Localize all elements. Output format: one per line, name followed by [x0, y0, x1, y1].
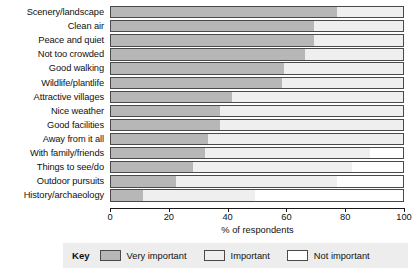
- bar-row: [110, 48, 404, 60]
- bar-segment-important: [305, 49, 404, 59]
- bar-row: [110, 91, 404, 103]
- category-label: Good facilities: [0, 120, 104, 130]
- legend-swatch: [204, 250, 225, 261]
- bar-segment-very-important: [111, 49, 305, 59]
- bar-segment-very-important: [111, 63, 284, 73]
- legend-entries: Very importantImportantNot important: [100, 250, 387, 261]
- horizontal-stacked-bar-chart: Scenery/landscapeClean airPeace and quie…: [0, 0, 415, 274]
- bar-segment-very-important: [111, 106, 220, 116]
- x-axis-tick-label: 100: [389, 212, 415, 223]
- bar-segment-important: [143, 190, 255, 200]
- bar-segment-very-important: [111, 162, 193, 172]
- bar-row: [110, 161, 404, 173]
- bar-segment-very-important: [111, 120, 220, 130]
- bar-segment-not-important: [352, 162, 404, 172]
- category-label: Good walking: [0, 63, 104, 73]
- legend-title: Key: [72, 250, 90, 261]
- bar-segment-important: [282, 78, 404, 88]
- category-label: Clean air: [0, 21, 104, 31]
- x-axis-line: [110, 208, 405, 209]
- legend-label: Important: [231, 251, 270, 261]
- category-labels-axis: Scenery/landscapeClean airPeace and quie…: [0, 6, 104, 207]
- bar-segment-very-important: [111, 92, 232, 102]
- legend-entry: Important: [204, 250, 270, 261]
- bar-row: [110, 105, 404, 117]
- bar-row: [110, 6, 404, 18]
- category-label: Attractive villages: [0, 92, 104, 102]
- bar-segment-very-important: [111, 176, 176, 186]
- category-label: Wildlife/plantlife: [0, 78, 104, 88]
- category-label: History/archaeology: [0, 190, 104, 200]
- bar-segment-very-important: [111, 21, 314, 31]
- x-axis-tick-label: 0: [95, 212, 125, 223]
- bar-row: [110, 133, 404, 145]
- legend-swatch: [287, 250, 308, 261]
- x-axis-tick-label: 20: [154, 212, 184, 223]
- bar-row: [110, 34, 404, 46]
- category-label: Peace and quiet: [0, 35, 104, 45]
- legend-entry: Very important: [100, 250, 187, 261]
- bar-segment-important: [284, 63, 404, 73]
- plot-area: [110, 6, 404, 207]
- bar-row: [110, 77, 404, 89]
- bar-segment-important: [314, 21, 404, 31]
- bar-segment-very-important: [111, 78, 282, 88]
- bar-segment-important: [205, 148, 370, 158]
- bar-segment-very-important: [111, 148, 205, 158]
- category-label: Away from it all: [0, 134, 104, 144]
- bar-segment-important: [176, 176, 338, 186]
- category-label: Things to see/do: [0, 162, 104, 172]
- category-label: Not too crowded: [0, 49, 104, 59]
- bar-segment-very-important: [111, 35, 314, 45]
- legend-swatch: [100, 250, 121, 261]
- bar-segment-very-important: [111, 134, 208, 144]
- x-axis-tick-label: 40: [213, 212, 243, 223]
- x-axis-tick-label: 80: [330, 212, 360, 223]
- bar-segment-important: [314, 35, 404, 45]
- bar-segment-not-important: [370, 148, 404, 158]
- bar-segment-not-important: [337, 176, 404, 186]
- x-axis-title: % of respondents: [110, 225, 405, 235]
- bar-row: [110, 20, 404, 32]
- bar-row: [110, 62, 404, 74]
- chart-legend: Key Very importantImportantNot important: [63, 243, 408, 268]
- bar-row: [110, 147, 404, 159]
- legend-entry: Not important: [287, 250, 370, 261]
- bar-segment-not-important: [255, 190, 404, 200]
- bar-segment-important: [220, 120, 404, 130]
- bar-segment-important: [193, 162, 352, 172]
- bar-row: [110, 189, 404, 201]
- bar-segment-important: [232, 92, 404, 102]
- category-label: Scenery/landscape: [0, 7, 104, 17]
- legend-label: Very important: [127, 251, 187, 261]
- bar-segment-important: [208, 134, 404, 144]
- bar-segment-very-important: [111, 7, 337, 17]
- category-label: Outdoor pursuits: [0, 176, 104, 186]
- category-label: Nice weather: [0, 106, 104, 116]
- category-label: With family/friends: [0, 148, 104, 158]
- bar-segment-important: [337, 7, 404, 17]
- bar-segment-important: [220, 106, 404, 116]
- legend-label: Not important: [314, 251, 370, 261]
- bar-segment-very-important: [111, 190, 143, 200]
- bar-row: [110, 175, 404, 187]
- x-axis-tick-label: 60: [271, 212, 301, 223]
- bar-row: [110, 119, 404, 131]
